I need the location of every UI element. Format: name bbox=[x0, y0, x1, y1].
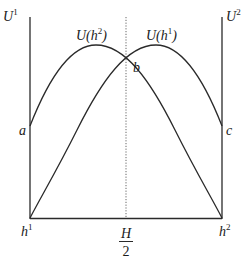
curve-u-h1-label: U(h1) bbox=[146, 26, 177, 44]
point-c-label: c bbox=[226, 123, 233, 138]
point-b-label: b bbox=[133, 60, 140, 75]
midpoint-numerator: H bbox=[120, 226, 132, 241]
point-a-label: a bbox=[19, 123, 26, 138]
h1-label: h1 bbox=[21, 222, 33, 239]
midpoint-denominator: 2 bbox=[123, 244, 130, 259]
curve-u-h2-label: U(h2) bbox=[76, 26, 107, 44]
u2-label: U2 bbox=[226, 7, 241, 24]
utility-diagram: U1 U2 U(h2) U(h1) a b c h1 h2 H 2 bbox=[0, 0, 252, 264]
u1-label: U1 bbox=[3, 7, 18, 24]
h2-label: h2 bbox=[219, 222, 231, 239]
